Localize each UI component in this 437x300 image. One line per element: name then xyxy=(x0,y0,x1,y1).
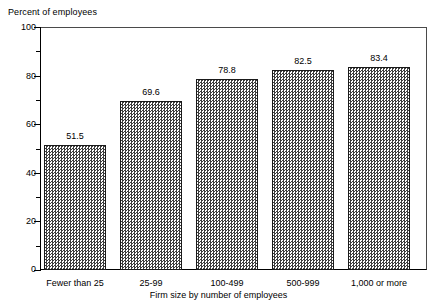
bar-value-100-499: 78.8 xyxy=(196,66,258,75)
x-tick-label-25-99: 25-99 xyxy=(116,278,186,288)
bar-value-1000-or-more: 83.4 xyxy=(348,54,410,63)
bar-fewer-than-25[interactable] xyxy=(44,145,106,270)
bar-value-25-99: 69.6 xyxy=(120,88,182,97)
bars-layer: 51.5 69.6 78.8 82.5 83.4 xyxy=(0,0,437,300)
bar-1000-or-more[interactable] xyxy=(348,67,410,270)
bar-value-fewer-than-25: 51.5 xyxy=(44,132,106,141)
x-tick-label-1000-or-more: 1,000 or more xyxy=(342,278,416,288)
x-tick-label-500-999: 500-999 xyxy=(268,278,338,288)
bar-value-500-999: 82.5 xyxy=(272,57,334,66)
bar-100-499[interactable] xyxy=(196,79,258,270)
x-tick-label-100-499: 100-499 xyxy=(192,278,262,288)
bar-25-99[interactable] xyxy=(120,101,182,270)
bar-chart-figure: Percent of employees 100 80 60 40 20 0 5… xyxy=(0,0,437,300)
x-axis-title: Firm size by number of employees xyxy=(0,290,437,300)
bar-500-999[interactable] xyxy=(272,70,334,270)
x-tick-label-fewer-than-25: Fewer than 25 xyxy=(40,278,110,288)
